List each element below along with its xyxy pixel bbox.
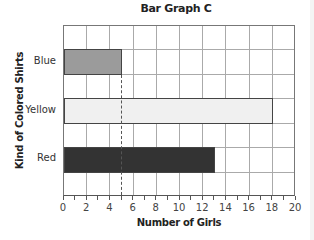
category-label: Blue xyxy=(34,55,56,66)
x-tick-label: 6 xyxy=(123,202,143,213)
x-tick xyxy=(155,196,156,200)
x-tick xyxy=(248,196,249,200)
category-label: Red xyxy=(37,152,56,163)
x-axis-label: Number of Girls xyxy=(63,217,295,228)
page-edge-shadow xyxy=(310,0,314,240)
x-tick xyxy=(283,196,284,200)
bar-red xyxy=(64,147,215,172)
chart-title: Bar Graph C xyxy=(0,2,314,15)
x-tick-label: 8 xyxy=(146,202,166,213)
x-tick xyxy=(121,196,122,200)
x-tick xyxy=(109,196,110,200)
x-tick-label: 0 xyxy=(53,202,73,213)
bar-blue xyxy=(64,49,122,74)
x-tick xyxy=(144,196,145,200)
x-tick xyxy=(132,196,133,200)
x-tick-label: 12 xyxy=(192,202,212,213)
x-tick xyxy=(167,196,168,200)
x-tick-label: 4 xyxy=(99,202,119,213)
x-tick-label: 20 xyxy=(285,202,305,213)
y-axis-label: Kind of Colored Shirts xyxy=(14,36,25,186)
x-tick xyxy=(260,196,261,200)
x-tick-label: 18 xyxy=(262,202,282,213)
x-tick xyxy=(86,196,87,200)
bar-yellow xyxy=(64,98,273,123)
x-tick xyxy=(63,196,64,200)
x-tick-label: 14 xyxy=(215,202,235,213)
x-tick xyxy=(179,196,180,200)
x-tick xyxy=(295,196,296,200)
x-tick xyxy=(225,196,226,200)
x-tick xyxy=(213,196,214,200)
x-tick xyxy=(237,196,238,200)
x-tick-label: 16 xyxy=(239,202,259,213)
x-tick-label: 2 xyxy=(76,202,96,213)
x-tick xyxy=(271,196,272,200)
category-label: Yellow xyxy=(25,104,56,115)
x-tick-label: 10 xyxy=(169,202,189,213)
reference-line xyxy=(121,75,122,195)
x-tick xyxy=(190,196,191,200)
x-tick xyxy=(74,196,75,200)
x-tick xyxy=(97,196,98,200)
plot-area xyxy=(63,25,295,196)
x-tick xyxy=(202,196,203,200)
